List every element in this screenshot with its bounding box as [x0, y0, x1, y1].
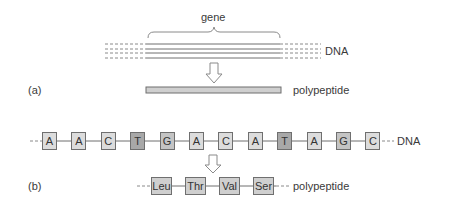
dna-strands-dashed-a: [105, 44, 321, 58]
nucleotide-box: A: [71, 132, 86, 150]
amino-acid-box: Ser: [253, 177, 274, 195]
gene-label: gene: [201, 11, 225, 23]
nucleotide-box: T: [277, 132, 292, 150]
gene-brace: [148, 27, 280, 38]
nucleotide-box: G: [336, 132, 351, 150]
dna-label-b: DNA: [397, 135, 420, 147]
amino-acid-box: Thr: [185, 177, 206, 195]
panel-a-label: (a): [28, 84, 41, 96]
polypeptide-label-b: polypeptide: [293, 180, 349, 192]
nucleotide-box: T: [130, 132, 145, 150]
polypeptide-label-a: polypeptide: [293, 84, 349, 96]
amino-acid-box: Leu: [151, 177, 172, 195]
arrow-down-icon: [206, 63, 222, 83]
dna-strands-a: [146, 44, 280, 58]
nucleotide-box: C: [101, 132, 116, 150]
nucleotide-box: A: [42, 132, 57, 150]
nucleotide-box: G: [160, 132, 175, 150]
nucleotide-box: C: [218, 132, 233, 150]
nucleotide-box: A: [307, 132, 322, 150]
arrow-down-icon: [205, 155, 221, 173]
nucleotide-box: A: [248, 132, 263, 150]
dna-label-a: DNA: [325, 45, 348, 57]
panel-b-label: (b): [28, 180, 41, 192]
nucleotide-box: A: [189, 132, 204, 150]
polypeptide-bar: [146, 87, 281, 93]
nucleotide-box: C: [365, 132, 380, 150]
amino-acid-box: Val: [219, 177, 240, 195]
